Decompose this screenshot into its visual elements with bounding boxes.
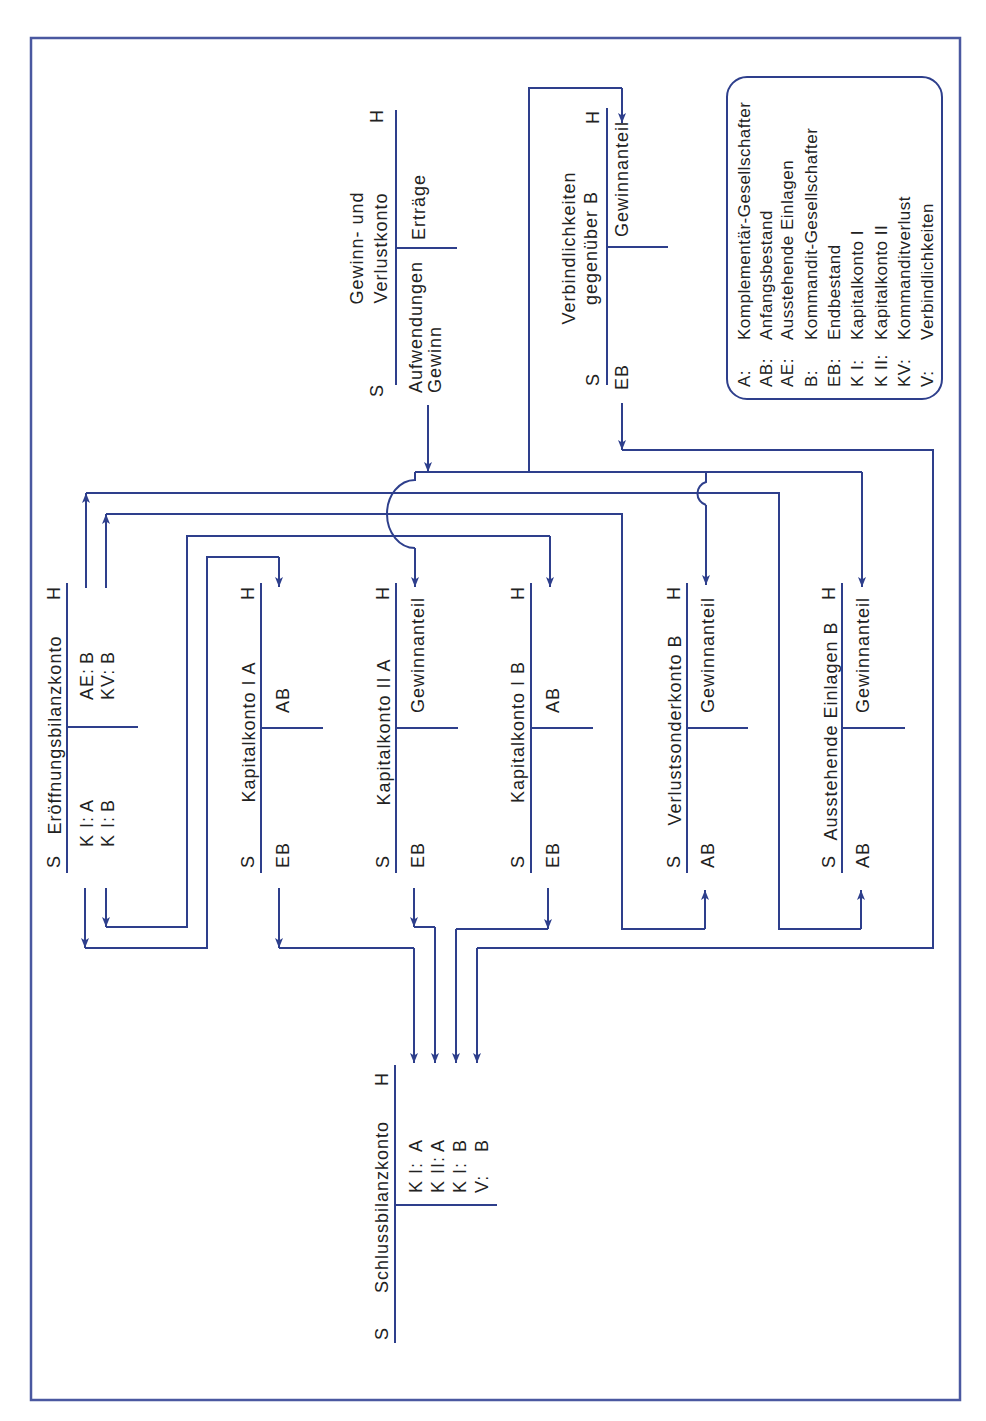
t-account-eroeffnungsbilanzkonto: S H Eröffnungsbilanzkonto K I: A K I: B … [44,583,138,873]
diagram-page: A: Komplementär-Gesellschafter AB: Anfan… [0,0,986,1421]
legend: A: Komplementär-Gesellschafter AB: Anfan… [727,77,942,399]
debit-entry-value: A [77,799,97,812]
credit-side-label: H [367,109,387,123]
debit-side-label: S [44,855,64,868]
connector-line [106,514,705,929]
account-flow-diagram: A: Komplementär-Gesellschafter AB: Anfan… [0,0,986,1421]
credit-entry-label: AE: [77,668,97,700]
legend-text: Kapitalkonto II [872,225,891,340]
t-account-lines [261,583,323,873]
credit-side-label: H [664,586,684,600]
credit-entry: Gewinnanteil [698,597,718,713]
debit-entry: EB [273,842,293,868]
account-title: Eröffnungsbilanzkonto [45,636,65,835]
debit-side-label: S [367,384,387,397]
t-account-kapitalkonto-1-a: S H Kapitalkonto I A AB EB [238,583,323,873]
legend-abbr: K I: [848,359,867,387]
t-account-lines [395,1065,497,1343]
credit-entry: Gewinnanteil [408,597,428,713]
credit-side-label: H [583,110,603,124]
t-account-lines [842,583,905,873]
debit-side-label: S [508,855,528,868]
account-title: Kapitalkonto II A [374,658,394,805]
account-title: Kapitalkonto I B [508,661,528,803]
credit-entry: Gewinnanteil [612,121,632,237]
credit-entry-label: K I: [450,1162,470,1193]
credit-side-label: H [238,586,258,600]
credit-entry: Erträge [409,174,429,240]
t-account-gewinn-und-verlustkonto: S H Gewinn- und Verlustkonto Erträge Auf… [347,109,457,397]
credit-entry-value: B [450,1139,470,1152]
account-title: Schlussbilanzkonto [372,1121,392,1293]
legend-abbr: AE: [778,358,797,387]
credit-entry-label: K II: [428,1156,448,1193]
credit-side-label: H [373,586,393,600]
debit-side-label: S [373,855,393,868]
debit-entry: EB [408,842,428,868]
credit-side-label: H [819,586,839,600]
debit-entry: EB [543,842,563,868]
connector-line [86,493,861,929]
account-title: Ausstehende Einlagen B [821,621,841,840]
legend-abbr: A: [735,370,754,387]
credit-side-label: H [372,1072,392,1086]
debit-entry-label: K I: [98,816,118,847]
legend-text: Verbindlichkeiten [918,203,937,340]
legend-abbr: V: [918,371,937,387]
t-account-verlustsonderkonto-b: S H Verlustsonderkonto B Gewinnanteil AB [664,583,748,873]
t-account-ausstehende-einlagen-b: S H Ausstehende Einlagen B Gewinnanteil … [819,583,905,873]
account-title-line-1: Gewinn- und [347,191,367,304]
t-account-verbindlichkeiten-b: S H Verbindlichkeiten gegenüber B Gewinn… [559,108,668,390]
debit-side-label: S [819,855,839,868]
account-title-line-2: gegenüber B [581,191,601,305]
debit-side-label: S [238,855,258,868]
legend-text: Anfangsbestand [757,210,776,340]
t-account-kapitalkonto-2-a: S H Kapitalkonto II A Gewinnanteil EB [373,583,458,873]
credit-entry-value: B [98,651,118,664]
legend-abbr: EB: [825,358,844,387]
line-crossing-bridge [697,472,706,505]
t-account-kapitalkonto-1-b: S H Kapitalkonto I B AB EB [508,583,593,873]
legend-abbr: AB: [757,358,776,387]
legend-text: Endbestand [825,244,844,340]
legend-abbr: KV: [895,359,914,387]
credit-entry-value: B [472,1139,492,1152]
legend-abbr: B: [802,370,821,387]
account-title: Verlustsonderkonto B [665,634,685,825]
credit-entry-value: A [406,1139,426,1152]
account-title: Kapitalkonto I A [239,661,259,802]
debit-side-label: S [583,373,603,386]
connector-line [106,536,550,927]
credit-entry-value: B [77,651,97,664]
legend-text: Kommandit-Gesellschafter [802,128,821,340]
debit-entry: EB [612,364,632,390]
legend-text: Kapitalkonto I [848,230,867,340]
credit-entry-label: K I: [406,1162,426,1193]
credit-side-label: H [508,586,528,600]
debit-side-label: S [372,1327,392,1340]
t-account-lines [531,583,593,873]
debit-entry-label: K I: [77,816,97,847]
debit-entry: Aufwendungen [406,261,426,393]
legend-text: Komplementär-Gesellschafter [735,102,754,340]
debit-entry: AB [853,842,873,868]
debit-entry: Gewinn [425,326,445,393]
legend-abbr: K II: [872,354,891,387]
credit-side-label: H [44,586,64,600]
credit-entry: AB [543,687,563,713]
legend-text: Ausstehende Einlagen [778,160,797,340]
legend-text: Kommanditverlust [895,196,914,340]
credit-entry: AB [273,687,293,713]
account-title-line-2: Verlustkonto [371,192,391,303]
debit-side-label: S [664,855,684,868]
credit-entry-label: V: [472,1175,492,1193]
credit-entry-value: A [428,1139,448,1152]
credit-entry: Gewinnanteil [853,597,873,713]
account-title-line-1: Verbindlichkeiten [559,171,579,324]
credit-entry-label: KV: [98,669,118,700]
t-account-schlussbilanzkonto: S H Schlussbilanzkonto K I: A K II: A K … [372,1065,497,1343]
debit-entry: AB [698,842,718,868]
debit-entry-value: B [98,799,118,812]
